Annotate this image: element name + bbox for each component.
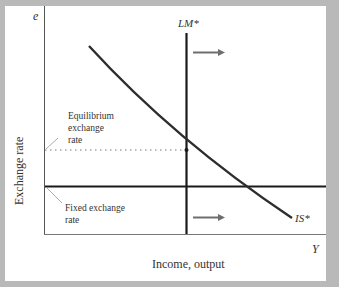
is-curve [89,46,292,218]
equilibrium-leader-line [46,138,58,149]
mundell-fleming-diagram: e Y Exchange rate Income, output LM* IS*… [0,0,339,287]
x-axis-symbol: Y [312,242,320,256]
y-axis-symbol: e [33,9,39,23]
y-axis-label: Exchange rate [12,137,26,205]
x-axis-label: Income, output [152,257,225,271]
fixed-label-line1: Fixed exchange [65,203,125,213]
equilibrium-label-line3: rate [68,135,82,145]
equilibrium-point [185,148,189,152]
equilibrium-label-line2: exchange [68,123,104,133]
is-shift-arrow [193,214,225,221]
fixed-leader-line [47,188,62,203]
equilibrium-label-line1: Equilibrium [68,111,115,121]
lm-shift-arrow [193,49,225,56]
lm-label: LM* [177,17,199,29]
is-label: IS* [294,212,310,224]
fixed-label-line2: rate [65,215,79,225]
